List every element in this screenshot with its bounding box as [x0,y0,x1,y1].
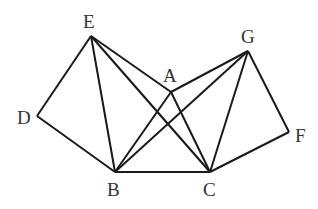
segment-DB [37,116,115,172]
label-e: E [83,12,95,31]
segment-CF [210,132,289,172]
label-b: B [107,180,120,199]
segment-ED [37,36,91,116]
label-a: A [163,66,177,85]
label-d: D [17,108,31,127]
label-g: G [241,27,255,46]
segment-EC [91,36,210,172]
segment-FG [248,51,289,132]
segment-AB [115,92,171,172]
geometry-diagram: E A G D F B C [0,0,318,209]
label-c: C [203,180,216,199]
segment-EB [91,36,115,172]
segment-EA [91,36,171,92]
label-f: F [295,126,306,145]
diagram-lines [0,0,318,209]
